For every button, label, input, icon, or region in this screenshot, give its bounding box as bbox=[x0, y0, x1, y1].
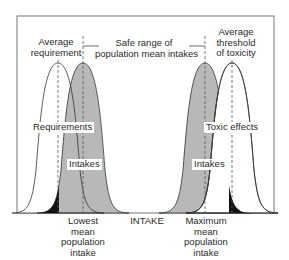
lowest-mean-intake-label: Lowest mean population intake bbox=[58, 216, 108, 258]
requirements-label: Requirements bbox=[31, 122, 94, 133]
intakes-left-label: Intakes bbox=[67, 159, 102, 170]
intakes-right-label: Intakes bbox=[192, 159, 227, 170]
average-toxicity-label: Average threshold of toxicity bbox=[212, 27, 260, 59]
x-axis-label: INTAKE bbox=[127, 216, 167, 227]
maximum-mean-intake-label: Maximum mean population intake bbox=[180, 216, 232, 258]
toxic-effects-label: Toxic effects bbox=[204, 122, 260, 133]
average-requirement-label: Average requirement bbox=[26, 37, 86, 58]
safe-range-label: Safe range of population mean intakes bbox=[95, 38, 193, 59]
